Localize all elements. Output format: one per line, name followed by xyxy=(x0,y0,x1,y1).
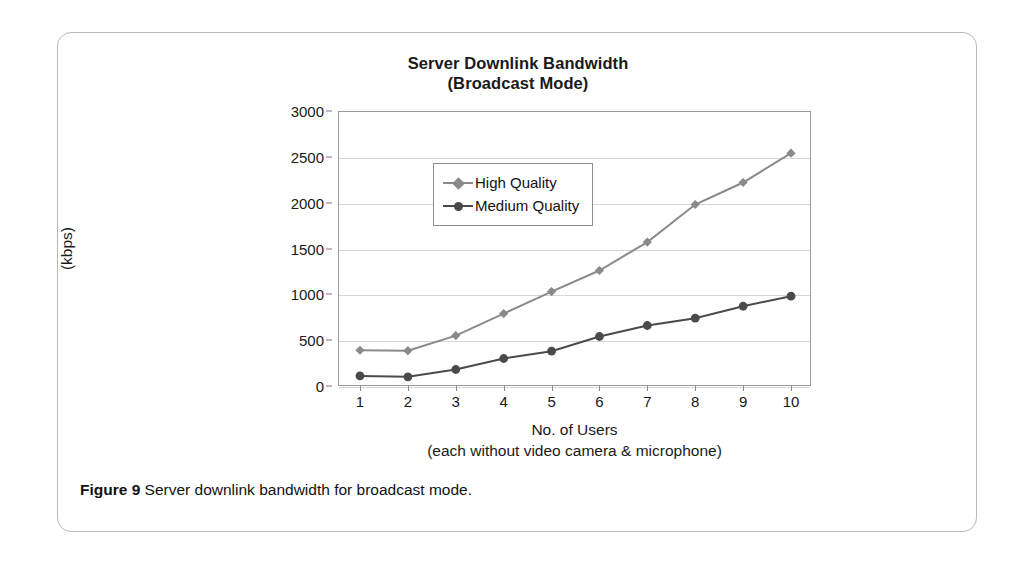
data-point-diamond xyxy=(595,266,604,275)
x-axis-tick-label: 6 xyxy=(595,393,603,410)
x-axis-tick-mark xyxy=(552,386,553,391)
data-point-diamond xyxy=(739,178,748,187)
x-axis-tick-mark xyxy=(408,386,409,391)
y-axis-title: Server Send Data Rate (kbps) xyxy=(57,111,78,386)
y-axis-tick-label: 1500 xyxy=(291,240,324,257)
data-point-circle xyxy=(643,321,652,330)
data-point-circle xyxy=(499,354,508,363)
legend-marker-diamond-icon xyxy=(452,177,465,190)
x-axis-title-note: (each without video camera & microphone) xyxy=(338,440,811,461)
y-axis-tick-label: 500 xyxy=(299,332,324,349)
gridline xyxy=(339,387,810,388)
legend-label: Medium Quality xyxy=(475,197,579,214)
figure-caption-label: Figure 9 xyxy=(80,481,140,498)
series-overlay xyxy=(338,111,811,386)
x-axis-tick-mark xyxy=(791,386,792,391)
chart-plot-area: Server Downlink Bandwidth (Broadcast Mod… xyxy=(58,33,977,473)
y-axis-tick-mark xyxy=(326,340,332,341)
series-2 xyxy=(356,292,796,381)
data-point-circle xyxy=(595,332,604,341)
data-point-diamond xyxy=(547,287,556,296)
y-axis-tick-label: 0 xyxy=(316,378,324,395)
y-axis-tick-labels: 050010001500200025003000 xyxy=(258,111,332,386)
x-axis-tick-labels: 12345678910 xyxy=(338,389,811,415)
x-axis-tick-mark xyxy=(599,386,600,391)
data-point-circle xyxy=(356,372,365,381)
x-axis-tick-mark xyxy=(695,386,696,391)
x-axis-tick-label: 1 xyxy=(356,393,364,410)
data-point-circle xyxy=(547,347,556,356)
series-line xyxy=(360,296,791,377)
y-axis-tick-label: 2000 xyxy=(291,194,324,211)
y-axis-tick-mark xyxy=(326,111,332,112)
y-axis-tick-mark xyxy=(326,202,332,203)
x-axis-tick-mark xyxy=(647,386,648,391)
legend-swatch xyxy=(443,199,473,213)
x-axis-tick-mark xyxy=(456,386,457,391)
data-point-diamond xyxy=(403,346,412,355)
y-axis-tick-mark xyxy=(326,294,332,295)
x-axis-tick-label: 8 xyxy=(691,393,699,410)
y-axis-tick-mark xyxy=(326,156,332,157)
chart-legend: High QualityMedium Quality xyxy=(433,163,593,226)
x-axis-tick-label: 4 xyxy=(499,393,507,410)
figure-caption: Figure 9 Server downlink bandwidth for b… xyxy=(80,481,960,499)
y-axis-tick-label: 2500 xyxy=(291,148,324,165)
chart-title-main: Server Downlink Bandwidth xyxy=(408,54,629,72)
y-axis-tick-label: 3000 xyxy=(291,103,324,120)
data-point-circle xyxy=(739,302,748,311)
legend-marker-circle-icon xyxy=(454,202,463,211)
chart-title-subtitle: (Broadcast Mode) xyxy=(58,73,977,93)
x-axis-tick-label: 7 xyxy=(643,393,651,410)
x-axis-tick-label: 9 xyxy=(739,393,747,410)
figure-card: Server Downlink Bandwidth (Broadcast Mod… xyxy=(57,32,977,532)
x-axis-tick-mark xyxy=(743,386,744,391)
data-point-diamond xyxy=(355,346,364,355)
y-axis-tick-mark xyxy=(326,248,332,249)
x-axis-title-main: No. of Users xyxy=(531,421,617,438)
x-axis-tick-label: 10 xyxy=(783,393,800,410)
x-axis-tick-label: 5 xyxy=(547,393,555,410)
legend-label: High Quality xyxy=(475,174,557,191)
x-axis-tick-label: 2 xyxy=(404,393,412,410)
data-point-diamond xyxy=(451,331,460,340)
data-point-diamond xyxy=(786,149,795,158)
data-point-circle xyxy=(451,365,460,374)
chart-title: Server Downlink Bandwidth (Broadcast Mod… xyxy=(58,53,977,93)
x-axis-title: No. of Users (each without video camera … xyxy=(338,419,811,461)
legend-item-2[interactable]: Medium Quality xyxy=(443,194,579,217)
data-point-circle xyxy=(691,314,700,323)
data-point-diamond xyxy=(499,309,508,318)
y-axis-tick-mark xyxy=(326,386,332,387)
legend-item-1[interactable]: High Quality xyxy=(443,171,579,194)
x-axis-tick-label: 3 xyxy=(452,393,460,410)
data-point-circle xyxy=(787,292,796,301)
y-axis-title-units: (kbps) xyxy=(57,111,76,386)
x-axis-tick-mark xyxy=(504,386,505,391)
legend-swatch xyxy=(443,176,473,190)
figure-caption-text: Server downlink bandwidth for broadcast … xyxy=(140,481,472,498)
y-axis-tick-label: 1000 xyxy=(291,286,324,303)
data-point-circle xyxy=(403,372,412,381)
x-axis-tick-mark xyxy=(360,386,361,391)
